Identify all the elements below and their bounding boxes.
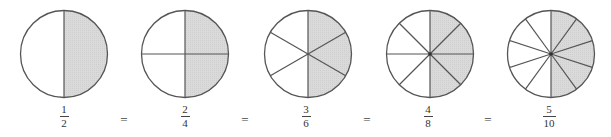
denominator: 10 (537, 117, 561, 129)
fraction-circle-2-4 (142, 11, 229, 98)
fraction-label: 12 (52, 104, 76, 129)
unshaded-sector (21, 10, 65, 97)
center-point (428, 52, 432, 56)
fraction-label: 510 (537, 104, 561, 129)
center-point (549, 52, 553, 56)
numerator: 4 (416, 104, 440, 116)
denominator: 2 (52, 117, 76, 129)
denominator: 6 (294, 117, 318, 129)
equals-sign: = (239, 113, 251, 127)
numerator: 2 (173, 104, 197, 116)
fraction-label: 48 (416, 104, 440, 129)
fraction-circle-1-2 (21, 10, 108, 97)
fraction-circle-4-8 (387, 10, 474, 97)
numerator: 3 (294, 104, 318, 116)
fraction-label: 24 (173, 104, 197, 129)
fraction-circle-5-10 (507, 11, 594, 98)
denominator: 4 (173, 117, 197, 129)
shaded-sector (64, 11, 108, 98)
equals-sign: = (482, 113, 494, 127)
numerator: 1 (52, 104, 76, 116)
fraction-circle-3-6 (264, 11, 351, 98)
denominator: 8 (416, 117, 440, 129)
equals-sign: = (361, 113, 373, 127)
numerator: 5 (537, 104, 561, 116)
fraction-label: 36 (294, 104, 318, 129)
equals-sign: = (118, 113, 130, 127)
